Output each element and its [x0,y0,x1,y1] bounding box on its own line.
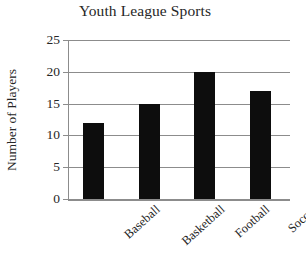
x-axis-tick-label: Football [232,203,271,240]
gridline [68,40,290,41]
chart-title: Youth League Sports [0,2,290,20]
y-axis-tick-mark [63,167,69,168]
y-axis-line [68,40,69,199]
y-axis-tick-label: 15 [47,97,61,111]
y-axis-tick-label: 0 [53,192,60,206]
y-axis-tick-label: 5 [53,160,60,174]
y-axis-title: Number of Players [4,69,20,171]
gridline [68,199,290,201]
y-axis-tick-label: 10 [47,129,61,143]
bar [194,72,215,199]
bar [139,104,160,199]
y-axis-tick-mark [63,199,69,200]
y-axis-tick-label: 25 [47,33,61,47]
x-axis-tick-label: Basketball [180,203,228,248]
y-axis-title-container: Number of Players [2,40,22,199]
y-axis-tick-mark [63,40,69,41]
y-axis-tick-mark [63,135,69,136]
bar [250,91,271,199]
bar-chart: Youth League Sports Number of Players 25… [0,0,306,273]
x-axis-tick-label: Soccer [286,203,306,235]
y-axis-tick-mark [63,104,69,105]
x-axis-tick-label: Baseball [122,203,162,241]
y-axis-tick-mark [63,72,69,73]
y-axis-tick-label: 20 [47,65,61,79]
bar [83,123,104,199]
plot-area: 2520151050 [68,40,290,199]
gridline [68,72,290,73]
